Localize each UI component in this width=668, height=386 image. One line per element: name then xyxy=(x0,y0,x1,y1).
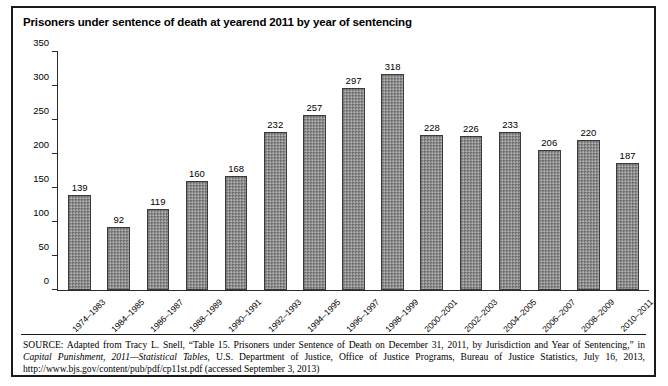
bar[interactable]: 206 xyxy=(538,150,561,290)
bar-value-label: 226 xyxy=(463,123,479,134)
chart-title: Prisoners under sentence of death at yea… xyxy=(23,16,412,28)
bar[interactable]: 139 xyxy=(68,195,91,290)
bar-slot: 187 xyxy=(608,52,647,290)
bar[interactable]: 232 xyxy=(264,132,287,290)
x-axis-label-slot: 1990–1991 xyxy=(216,295,255,345)
bar[interactable]: 226 xyxy=(460,136,483,290)
y-axis-tick-label: 350 xyxy=(33,36,49,47)
bar[interactable]: 92 xyxy=(107,227,130,290)
bar-value-label: 187 xyxy=(620,150,636,161)
x-axis-label-slot: 1984–1985 xyxy=(98,295,137,345)
bar-value-label: 257 xyxy=(306,102,322,113)
bar-value-label: 139 xyxy=(72,182,88,193)
x-axis-label-slot: 1998–1999 xyxy=(373,295,412,345)
x-axis-label-slot: 1974–1983 xyxy=(59,295,98,345)
bar-slot: 92 xyxy=(99,52,138,290)
bar-slot: 297 xyxy=(334,52,373,290)
x-axis-label-slot: 1992–1993 xyxy=(255,295,294,345)
source-publication-title: Capital Punishment, 2011—Statistical Tab… xyxy=(23,351,208,362)
x-axis-label-slot: 2008–2009 xyxy=(569,295,608,345)
y-axis-tick-label: 150 xyxy=(33,172,49,183)
bar[interactable]: 160 xyxy=(186,181,209,290)
bar[interactable]: 257 xyxy=(303,115,326,290)
bar-slot: 206 xyxy=(530,52,569,290)
bar-slot: 318 xyxy=(373,52,412,290)
bar-value-label: 220 xyxy=(580,127,596,138)
bar-value-label: 168 xyxy=(228,163,244,174)
y-axis-tick-label: 50 xyxy=(38,240,49,251)
bar-slot: 233 xyxy=(491,52,530,290)
bar-slot: 232 xyxy=(256,52,295,290)
x-axis-label-slot: 1988–1989 xyxy=(177,295,216,345)
bar-value-label: 119 xyxy=(150,196,165,207)
bar[interactable]: 119 xyxy=(147,209,170,290)
bar[interactable]: 233 xyxy=(499,132,522,290)
source-keyword: SOURCE: xyxy=(23,339,64,350)
y-axis-tick-label: 300 xyxy=(33,70,49,81)
x-axis-label-slot: 2000–2001 xyxy=(412,295,451,345)
x-axis-labels: 1974–19831984–19851986–19871988–19891990… xyxy=(57,295,649,345)
y-axis-tick-label: 250 xyxy=(33,104,49,115)
x-axis-label-slot: 2010–2011 xyxy=(608,295,647,345)
y-axis-tick-label: 0 xyxy=(44,274,49,285)
bar-slot: 257 xyxy=(295,52,334,290)
bar-value-label: 92 xyxy=(113,214,124,225)
bar-value-label: 233 xyxy=(502,119,518,130)
bar-value-label: 318 xyxy=(385,61,401,72)
bar[interactable]: 220 xyxy=(577,140,600,290)
bar-slot: 139 xyxy=(60,52,99,290)
bar-slot: 228 xyxy=(412,52,451,290)
x-axis-label-slot: 1996–1997 xyxy=(333,295,372,345)
y-axis-tick-label: 100 xyxy=(33,206,49,217)
x-axis-label-slot: 1986–1987 xyxy=(137,295,176,345)
x-axis-category-label: 2010–2011 xyxy=(619,297,656,334)
x-axis-label-slot: 2004–2005 xyxy=(490,295,529,345)
bar-value-label: 228 xyxy=(424,122,440,133)
bar-value-label: 206 xyxy=(541,137,557,148)
x-axis-label-slot: 2006–2007 xyxy=(529,295,568,345)
bar-value-label: 297 xyxy=(346,75,362,86)
bar-value-label: 232 xyxy=(267,119,283,130)
y-axis-tick-label: 200 xyxy=(33,138,49,149)
x-axis-label-slot: 2002–2003 xyxy=(451,295,490,345)
bar[interactable]: 228 xyxy=(420,135,443,290)
bar[interactable]: 297 xyxy=(342,88,365,290)
bar-series: 1399211916016823225729731822822623320622… xyxy=(58,52,649,290)
x-axis-label-slot: 1994–1995 xyxy=(294,295,333,345)
bar[interactable]: 187 xyxy=(616,163,639,290)
source-divider xyxy=(21,334,646,335)
source-note: SOURCE: Adapted from Tracy L. Snell, “Ta… xyxy=(23,339,645,376)
bar[interactable]: 168 xyxy=(225,176,248,290)
bar-slot: 119 xyxy=(138,52,177,290)
bar-slot: 168 xyxy=(217,52,256,290)
source-text-before: Adapted from Tracy L. Snell, “Table 15. … xyxy=(64,339,645,350)
bar-slot: 220 xyxy=(569,52,608,290)
figure-container: Prisoners under sentence of death at yea… xyxy=(11,6,656,377)
bar-slot: 226 xyxy=(451,52,490,290)
bar[interactable]: 318 xyxy=(381,74,404,290)
bar-value-label: 160 xyxy=(189,168,205,179)
plot-area: 050100150200250300350 139921191601682322… xyxy=(57,52,649,291)
plot-wrapper: 050100150200250300350 139921191601682322… xyxy=(13,48,654,300)
bar-slot: 160 xyxy=(177,52,216,290)
